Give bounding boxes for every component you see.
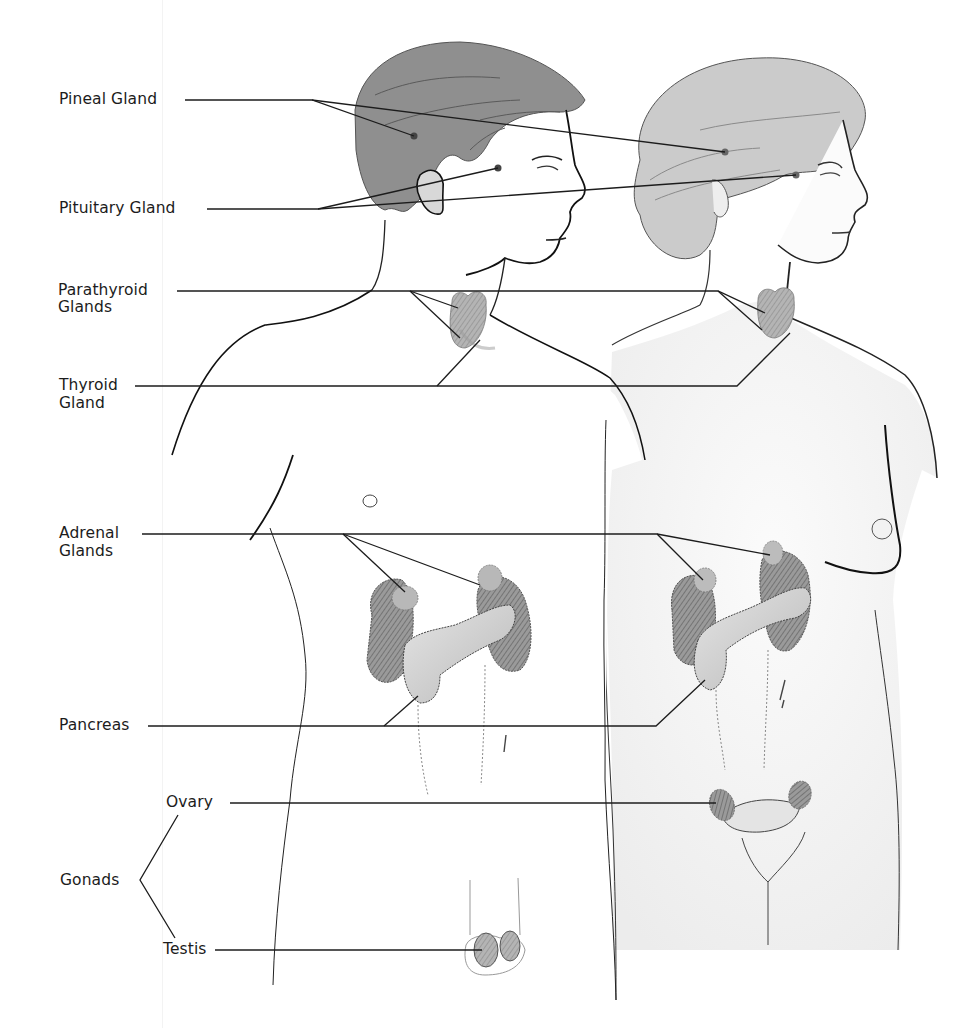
endocrine-diagram: Pineal Gland Pituitary Gland Parathyroid… — [0, 0, 977, 1028]
label-adrenal-line2: Glands — [59, 542, 113, 560]
label-parathyroid-line2: Glands — [58, 298, 112, 316]
male-figure — [172, 42, 645, 1000]
label-parathyroid-line1: Parathyroid — [58, 281, 148, 299]
label-adrenal-line1: Adrenal — [59, 524, 119, 542]
label-pineal-gland: Pineal Gland — [59, 90, 157, 108]
label-gonads: Gonads — [60, 871, 119, 889]
anatomy-illustration — [0, 0, 977, 1028]
label-ovary: Ovary — [166, 793, 213, 811]
label-pituitary-gland: Pituitary Gland — [59, 199, 176, 217]
label-pancreas: Pancreas — [59, 716, 129, 734]
label-testis: Testis — [163, 940, 207, 958]
label-thyroid-line2: Gland — [59, 394, 105, 412]
label-thyroid-line1: Thyroid — [59, 376, 118, 394]
female-figure — [605, 58, 938, 1000]
